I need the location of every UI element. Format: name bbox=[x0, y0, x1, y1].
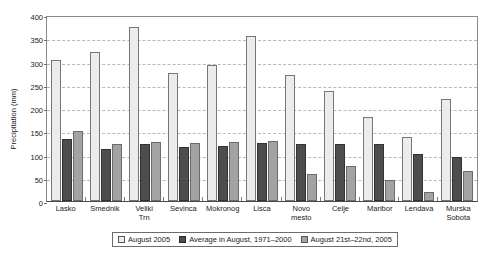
y-axis-tick-label: 0 bbox=[39, 199, 43, 208]
x-axis-tick-label-line: Sobota bbox=[439, 213, 478, 222]
bar-group bbox=[242, 17, 281, 201]
bar bbox=[101, 149, 111, 201]
bar bbox=[335, 144, 345, 201]
y-axis-tick-label: 50 bbox=[35, 175, 43, 184]
bar bbox=[112, 144, 122, 201]
bar-group bbox=[203, 17, 242, 201]
x-axis-tick-label: Lasko bbox=[46, 204, 85, 222]
bar bbox=[296, 144, 306, 201]
bar-group bbox=[47, 17, 86, 201]
x-axis-tick-label: Smednik bbox=[85, 204, 124, 222]
y-axis-tick-label: 350 bbox=[30, 36, 43, 45]
bar bbox=[413, 154, 423, 201]
bar bbox=[346, 166, 356, 201]
legend-item-label: August 21st–22nd, 2005 bbox=[311, 235, 392, 244]
bar bbox=[140, 144, 150, 201]
bar bbox=[151, 142, 161, 201]
x-axis-tick-label-line: Lasko bbox=[46, 204, 85, 213]
x-axis-tick-label-line: Smednik bbox=[85, 204, 124, 213]
legend-item[interactable]: August 21st–22nd, 2005 bbox=[301, 235, 392, 244]
plot-area: 050100150200250300350400 bbox=[46, 16, 478, 202]
x-axis-tick-label-line: Murska bbox=[439, 204, 478, 213]
bar bbox=[90, 52, 100, 201]
x-axis-tick-label: Lisca bbox=[242, 204, 281, 222]
x-axis-tick-label-line: Sevinca bbox=[164, 204, 203, 213]
y-axis-tick-label: 150 bbox=[30, 129, 43, 138]
y-axis-title: Precipitation (mm) bbox=[2, 44, 16, 194]
bar bbox=[385, 180, 395, 201]
x-axis-tick-label: MurskaSobota bbox=[439, 204, 478, 222]
x-axis-tick-label: Sevinca bbox=[164, 204, 203, 222]
bar-group bbox=[282, 17, 321, 201]
bar bbox=[363, 117, 373, 201]
bar-group bbox=[164, 17, 203, 201]
y-axis-tick-label: 300 bbox=[30, 59, 43, 68]
x-axis-tick-label-line: Maribor bbox=[360, 204, 399, 213]
bar bbox=[441, 99, 451, 201]
x-axis-tick-label-line: mesto bbox=[282, 213, 321, 222]
bar bbox=[307, 174, 317, 201]
x-axis-tick-label: Lendava bbox=[399, 204, 438, 222]
bar bbox=[257, 143, 267, 201]
legend-item[interactable]: Average in August, 1971–2000 bbox=[179, 235, 291, 244]
y-axis-tick-label: 400 bbox=[30, 13, 43, 22]
bar bbox=[168, 73, 178, 201]
x-axis-tick-label-line: Lisca bbox=[242, 204, 281, 213]
bar-group bbox=[321, 17, 360, 201]
bar bbox=[374, 144, 384, 201]
bar bbox=[62, 139, 72, 201]
y-axis-tick-label: 200 bbox=[30, 106, 43, 115]
legend-item-label: August 2005 bbox=[128, 235, 170, 244]
x-axis-tick-label-line: Veliki bbox=[125, 204, 164, 213]
bar-group bbox=[360, 17, 399, 201]
bar bbox=[268, 141, 278, 201]
bar-group bbox=[86, 17, 125, 201]
y-axis-tick-label: 250 bbox=[30, 82, 43, 91]
chart-root: Precipitation (mm) 050100150200250300350… bbox=[0, 0, 488, 264]
bar bbox=[402, 137, 412, 201]
x-axis-tick-label-line: Novo bbox=[282, 204, 321, 213]
bar-groups bbox=[47, 17, 477, 201]
x-axis-tick-label: Mokronog bbox=[203, 204, 242, 222]
legend-swatch-icon bbox=[301, 236, 308, 243]
bar bbox=[179, 147, 189, 201]
bar bbox=[129, 27, 139, 201]
x-axis-tick-label-line: Celje bbox=[321, 204, 360, 213]
legend-swatch-icon bbox=[118, 236, 125, 243]
x-axis-tick-label-line: Trn bbox=[125, 213, 164, 222]
x-axis-labels: LaskoSmednikVelikiTrnSevincaMokronogLisc… bbox=[46, 204, 478, 222]
x-axis-tick-label-line: Mokronog bbox=[203, 204, 242, 213]
bar-group bbox=[125, 17, 164, 201]
bar bbox=[452, 157, 462, 201]
bar bbox=[246, 36, 256, 201]
bar bbox=[463, 171, 473, 201]
legend-item-label: Average in August, 1971–2000 bbox=[189, 235, 291, 244]
bar bbox=[285, 75, 295, 201]
bar bbox=[207, 65, 217, 201]
x-axis-tick-label: Celje bbox=[321, 204, 360, 222]
bar bbox=[229, 142, 239, 201]
legend-item[interactable]: August 2005 bbox=[118, 235, 170, 244]
bar bbox=[73, 131, 83, 201]
bar bbox=[51, 60, 61, 201]
x-axis-tick-label: VelikiTrn bbox=[125, 204, 164, 222]
bar bbox=[324, 91, 334, 201]
bar bbox=[218, 146, 228, 201]
bar-group bbox=[438, 17, 477, 201]
x-axis-tick-label-line: Lendava bbox=[399, 204, 438, 213]
x-axis-tick-label: Maribor bbox=[360, 204, 399, 222]
chart-legend: August 2005Average in August, 1971–2000A… bbox=[112, 232, 398, 247]
x-axis-tick-label: Novomesto bbox=[282, 204, 321, 222]
legend-swatch-icon bbox=[179, 236, 186, 243]
bar bbox=[424, 192, 434, 201]
y-axis-tick-label: 100 bbox=[30, 152, 43, 161]
bar-group bbox=[399, 17, 438, 201]
bar bbox=[190, 143, 200, 201]
